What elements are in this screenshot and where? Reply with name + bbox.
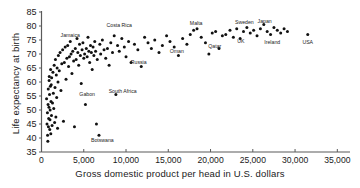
data-point — [259, 27, 262, 30]
data-point — [66, 44, 69, 47]
data-point — [111, 51, 114, 54]
data-point — [45, 123, 48, 126]
data-point — [61, 48, 64, 51]
data-point — [143, 36, 146, 39]
data-point — [221, 34, 224, 37]
data-point — [54, 116, 57, 119]
x-tick-label: 35,000 — [324, 155, 351, 165]
data-point — [161, 44, 164, 47]
data-point — [92, 54, 95, 57]
data-point — [204, 41, 207, 44]
data-point — [140, 65, 143, 68]
data-point — [49, 132, 52, 135]
y-tick-label: 55 — [26, 91, 36, 101]
data-point — [84, 103, 87, 106]
data-point — [106, 47, 109, 50]
y-tick-label: 45 — [26, 119, 36, 129]
y-axis-title: Life expectancy at birth — [10, 9, 21, 159]
data-point — [224, 33, 227, 36]
point-label: Ireland — [264, 39, 280, 45]
data-point — [87, 50, 90, 53]
data-point — [283, 27, 286, 30]
data-point — [85, 47, 88, 50]
data-point — [272, 26, 275, 29]
data-point — [76, 51, 79, 54]
data-point — [47, 125, 50, 128]
data-point — [47, 106, 50, 109]
data-point — [147, 41, 150, 44]
data-point — [133, 43, 136, 46]
data-point — [65, 78, 68, 81]
data-point — [51, 71, 54, 74]
data-point — [64, 46, 67, 49]
data-point — [196, 27, 199, 30]
data-point — [103, 48, 106, 51]
point-label: USA — [302, 39, 313, 45]
data-point — [109, 41, 112, 44]
data-point — [49, 68, 52, 71]
data-point — [266, 30, 269, 33]
data-point — [181, 37, 184, 40]
data-point — [153, 39, 156, 42]
data-point — [55, 74, 58, 77]
data-point — [50, 76, 53, 79]
data-point — [252, 29, 255, 32]
data-point — [276, 29, 279, 32]
data-point — [101, 39, 104, 42]
point-annotations: JamaicaCosta RicaRussiaGabonSouth Africa… — [61, 18, 314, 143]
y-tick-label: 60 — [26, 77, 36, 87]
x-tick-label: 5,000 — [73, 155, 95, 165]
data-point — [116, 44, 119, 47]
x-tick-label: 15,000 — [155, 155, 182, 165]
y-tick-label: 70 — [26, 49, 36, 59]
data-point — [125, 55, 128, 58]
point-label: Japan — [258, 18, 272, 24]
data-point — [136, 48, 139, 51]
data-point — [168, 40, 171, 43]
data-point — [108, 64, 111, 67]
data-point — [189, 33, 192, 36]
data-point — [51, 124, 54, 127]
data-point — [214, 30, 217, 33]
data-point — [95, 123, 98, 126]
data-point — [49, 109, 52, 112]
data-point — [99, 53, 102, 56]
data-point — [72, 60, 75, 63]
data-point — [90, 51, 93, 54]
data-point — [75, 58, 78, 61]
data-point — [71, 50, 74, 53]
data-point — [86, 55, 89, 58]
data-point — [92, 46, 95, 49]
data-point — [79, 54, 82, 57]
data-point — [200, 36, 203, 39]
data-point — [70, 72, 73, 75]
data-point — [46, 134, 49, 137]
y-tick-label: 40 — [26, 133, 36, 143]
data-point — [245, 26, 248, 29]
data-point — [54, 86, 57, 89]
data-point — [51, 102, 54, 105]
data-point — [48, 118, 51, 121]
y-tick-label: 65 — [26, 63, 36, 73]
data-point — [56, 127, 59, 130]
y-tick-label: 35 — [26, 147, 36, 157]
point-label: Botswana — [91, 137, 114, 143]
x-tick-label: 30,000 — [282, 155, 309, 165]
data-point — [185, 43, 188, 46]
y-tick-label: 85 — [26, 7, 36, 17]
data-point — [269, 33, 272, 36]
data-point — [47, 88, 50, 91]
data-point — [286, 30, 289, 33]
data-point — [67, 65, 70, 68]
data-point — [60, 62, 63, 65]
data-point — [211, 32, 214, 35]
data-point — [47, 103, 50, 106]
data-point — [50, 114, 53, 117]
x-axis-title: Gross domestic product per head in U.S. … — [0, 168, 360, 179]
data-point — [53, 64, 56, 67]
data-point — [48, 128, 51, 131]
data-point — [279, 32, 282, 35]
data-point — [123, 46, 126, 49]
data-point — [52, 92, 55, 95]
data-point — [48, 93, 51, 96]
